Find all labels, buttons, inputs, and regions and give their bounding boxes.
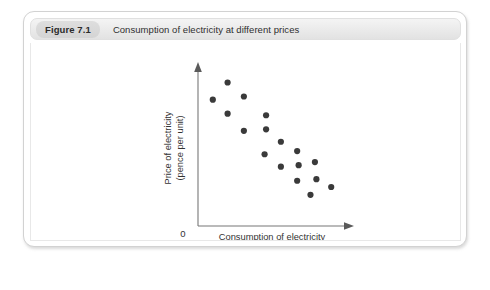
x-axis-label-line1: Consumption of electricity <box>219 232 326 241</box>
data-point <box>328 184 334 190</box>
data-point <box>307 192 313 198</box>
figure-title: Consumption of electricity at different … <box>113 24 299 35</box>
data-point <box>278 139 284 145</box>
x-axis-arrowhead <box>344 222 354 230</box>
y-axis-label-line1: Price of electricity <box>163 111 173 184</box>
data-point <box>262 151 268 157</box>
origin-label: 0 <box>180 228 185 239</box>
y-axis-label-line2: (pence per unit) <box>175 115 185 180</box>
data-point <box>278 164 284 170</box>
data-point <box>313 176 319 182</box>
data-point <box>263 112 269 118</box>
data-point <box>210 97 216 103</box>
data-point <box>294 148 300 154</box>
data-point <box>241 93 247 99</box>
scatter-chart: 0 Price of electricity (pence per unit) … <box>31 43 461 241</box>
data-point <box>294 178 300 184</box>
data-point <box>225 111 231 117</box>
figure-card: Figure 7.1 Consumption of electricity at… <box>23 11 467 247</box>
data-point <box>296 162 302 168</box>
figure-body: 0 Price of electricity (pence per unit) … <box>30 43 461 241</box>
data-point <box>225 79 231 85</box>
y-axis-arrowhead <box>194 62 202 72</box>
figure-header: Figure 7.1 Consumption of electricity at… <box>30 18 461 40</box>
data-point <box>263 126 269 132</box>
data-point <box>241 128 247 134</box>
data-point <box>312 159 318 165</box>
scatter-points-group <box>210 79 335 198</box>
figure-number-badge: Figure 7.1 <box>36 21 100 38</box>
